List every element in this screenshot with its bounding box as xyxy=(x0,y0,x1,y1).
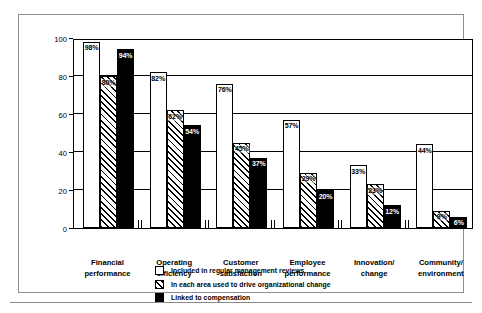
y-tick-label: 0 xyxy=(27,225,67,234)
bar-value-label: 62% xyxy=(168,113,183,121)
bars: 82%62%54% xyxy=(150,40,201,228)
x-axis-label: Community/environment xyxy=(408,257,475,279)
bar-value-label: 12% xyxy=(385,208,399,216)
figure: Percent Reporting Measures 020406080100 … xyxy=(0,0,482,313)
bar-value-label: 20% xyxy=(319,193,333,201)
bar[interactable]: 80% xyxy=(100,76,117,228)
bar[interactable]: 45% xyxy=(233,143,250,229)
y-tick-label: 100 xyxy=(27,35,67,44)
bar-value-label: 9% xyxy=(436,213,447,221)
bar-group: 76%45%37% xyxy=(216,40,267,228)
y-tick-label: 40 xyxy=(27,149,67,158)
bar[interactable]: 29% xyxy=(300,173,317,228)
bar[interactable]: 94% xyxy=(117,49,134,228)
group-separator-tick xyxy=(408,220,409,228)
bar[interactable]: 54% xyxy=(184,125,201,228)
legend-item[interactable]: In each area used to drive organizationa… xyxy=(155,278,415,292)
bars: 57%29%20% xyxy=(283,40,334,228)
bar-value-label: 94% xyxy=(119,52,133,60)
bar-value-label: 23% xyxy=(368,187,383,195)
bar[interactable]: 20% xyxy=(317,190,334,228)
legend-label: Included in regular management reviews xyxy=(171,267,304,274)
x-axis-label-line: Financial xyxy=(74,257,141,268)
bar-group: 33%23%12% xyxy=(350,40,401,228)
bars: 44%9%6% xyxy=(416,40,467,228)
group-separator-tick xyxy=(205,220,206,228)
bar[interactable]: 9% xyxy=(433,211,450,228)
legend-item[interactable]: Included in regular management reviews xyxy=(155,264,415,278)
bar[interactable]: 98% xyxy=(83,42,100,228)
bar-value-label: 6% xyxy=(454,219,464,227)
y-tick-label: 60 xyxy=(27,111,67,120)
x-axis-label: Financialperformance xyxy=(74,257,141,279)
bars: 76%45%37% xyxy=(216,40,267,228)
group-separator-tick xyxy=(208,220,209,228)
legend-label: Linked to compensation xyxy=(171,294,250,301)
bar-value-label: 80% xyxy=(101,79,116,87)
plot-area: 98%80%94%82%62%54%76%45%37%57%29%20%33%2… xyxy=(73,39,473,229)
black-square-icon xyxy=(155,293,164,302)
bar-value-label: 37% xyxy=(252,160,266,168)
bar-value-label: 57% xyxy=(285,122,299,130)
y-tick-label: 80 xyxy=(27,73,67,82)
x-axis-label-line: environment xyxy=(408,268,475,279)
bar[interactable]: 23% xyxy=(367,184,384,228)
group-separator-tick xyxy=(141,220,142,228)
legend: Included in regular management reviewsIn… xyxy=(155,264,415,305)
group-separator-tick xyxy=(271,220,272,228)
bar-value-label: 98% xyxy=(85,44,99,52)
bar-value-label: 76% xyxy=(218,86,232,94)
legend-label: In each area used to drive organizationa… xyxy=(171,281,331,288)
group-separator-tick xyxy=(405,220,406,228)
bar[interactable]: 57% xyxy=(283,120,300,228)
bar[interactable]: 33% xyxy=(350,165,367,228)
bar-value-label: 29% xyxy=(301,175,316,183)
hatched-square-icon xyxy=(155,280,164,289)
bar-value-label: 44% xyxy=(418,147,432,155)
bar-value-label: 45% xyxy=(234,145,249,153)
bar-group: 98%80%94% xyxy=(83,40,134,228)
bar[interactable]: 44% xyxy=(416,144,433,228)
plot-wrapper: Percent Reporting Measures 020406080100 … xyxy=(73,39,473,229)
group-separator-tick xyxy=(138,220,139,228)
y-tick-label: 20 xyxy=(27,187,67,196)
group-separator-tick xyxy=(274,220,275,228)
bar-group: 82%62%54% xyxy=(150,40,201,228)
chart-frame: Percent Reporting Measures 020406080100 … xyxy=(18,14,464,293)
white-square-icon xyxy=(155,266,164,275)
bars: 33%23%12% xyxy=(350,40,401,228)
bar-value-label: 54% xyxy=(185,128,199,136)
bar[interactable]: 82% xyxy=(150,72,167,228)
bar-group: 44%9%6% xyxy=(416,40,467,228)
bar-value-label: 33% xyxy=(351,168,365,176)
x-axis-label-line: Community/ xyxy=(408,257,475,268)
bars: 98%80%94% xyxy=(83,40,134,228)
group-separator-tick xyxy=(341,220,342,228)
bar-group: 57%29%20% xyxy=(283,40,334,228)
group-separator-tick xyxy=(338,220,339,228)
bottom-rule xyxy=(10,302,472,303)
bar[interactable]: 37% xyxy=(250,158,267,228)
bar[interactable]: 62% xyxy=(167,110,184,228)
x-axis-label-line: performance xyxy=(74,268,141,279)
bar[interactable]: 6% xyxy=(450,217,467,228)
bar[interactable]: 76% xyxy=(216,84,233,228)
bar[interactable]: 12% xyxy=(384,205,401,228)
bar-value-label: 82% xyxy=(151,75,165,83)
